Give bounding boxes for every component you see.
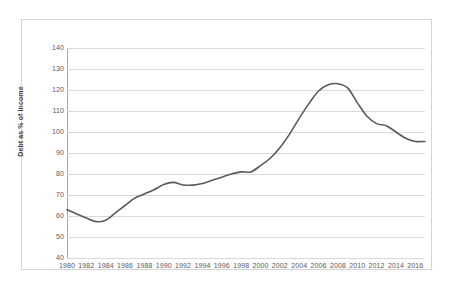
y-axis-title: Debt as % of Income	[17, 62, 24, 182]
chart-container: Debt as % of Income 14013012011010090807…	[0, 0, 454, 288]
gridline-40	[67, 258, 425, 259]
x-tick-label-1982: 1982	[78, 261, 94, 270]
y-tick-label-80: 80	[38, 170, 64, 178]
x-tick-label-1992: 1992	[175, 261, 191, 270]
x-tick-label-1984: 1984	[98, 261, 114, 270]
x-tick-label-2004: 2004	[291, 261, 307, 270]
x-tick-label-2016: 2016	[407, 261, 423, 270]
y-tick-label-90: 90	[38, 149, 64, 157]
x-tick-label-1980: 1980	[59, 261, 75, 270]
series-path-debt-pct-income	[67, 83, 425, 221]
x-tick-label-2010: 2010	[349, 261, 365, 270]
x-tick-label-2012: 2012	[369, 261, 385, 270]
x-tick-label-1998: 1998	[233, 261, 249, 270]
x-tick-label-2002: 2002	[272, 261, 288, 270]
y-axis-tick-labels: 140130120110100908070605040	[36, 0, 64, 288]
x-tick-label-2000: 2000	[253, 261, 269, 270]
y-tick-label-130: 130	[38, 65, 64, 73]
x-tick-label-1986: 1986	[117, 261, 133, 270]
plot-area	[67, 48, 425, 258]
x-tick-label-1994: 1994	[194, 261, 210, 270]
y-tick-label-60: 60	[38, 212, 64, 220]
x-tick-label-2014: 2014	[388, 261, 404, 270]
x-tick-label-2006: 2006	[311, 261, 327, 270]
y-tick-label-50: 50	[38, 233, 64, 241]
y-tick-label-140: 140	[38, 44, 64, 52]
y-tick-label-70: 70	[38, 191, 64, 199]
x-tick-label-1990: 1990	[156, 261, 172, 270]
x-axis-tick-labels: 1980198219841986198819901992199419961998…	[67, 261, 425, 273]
x-tick-label-1996: 1996	[214, 261, 230, 270]
y-tick-label-100: 100	[38, 128, 64, 136]
y-tick-label-120: 120	[38, 86, 64, 94]
data-series-line	[67, 48, 425, 258]
x-tick-label-2008: 2008	[330, 261, 346, 270]
x-tick-label-1988: 1988	[136, 261, 152, 270]
y-tick-label-110: 110	[38, 107, 64, 115]
